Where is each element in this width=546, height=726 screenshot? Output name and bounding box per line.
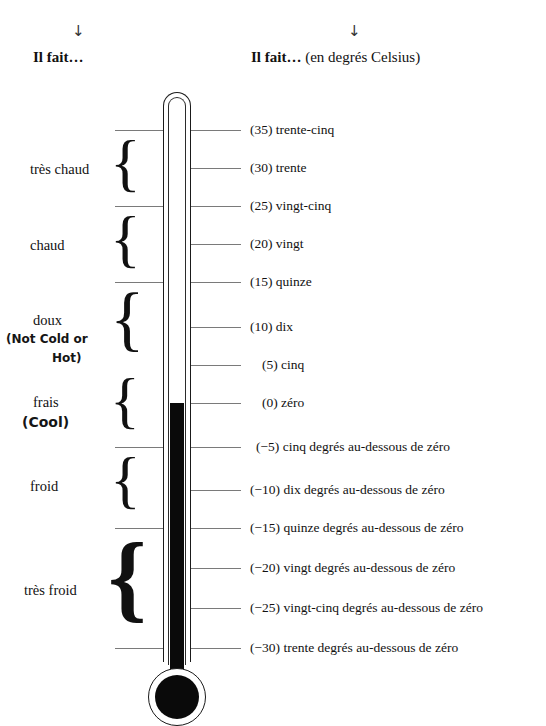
category-label-chaud: chaud [30,238,65,253]
brace-tres-froid: { [108,531,147,623]
reading-label-m30: (−30) trente degrés au-dessous de zéro [250,641,458,655]
brace-tres-chaud: { [110,133,141,193]
reading-label-m15: (−15) quinze degrés au-dessous de zéro [250,521,463,535]
brace-chaud: { [110,209,141,269]
reading-label-0: (0) zéro [262,396,304,410]
thermometer-bulb-inner [155,675,199,719]
brace-frais: { [110,371,140,429]
reading-label-m10: (−10) dix degrés au-dessous de zéro [250,483,445,497]
reading-label-m20: (−20) vingt degrés au-dessous de zéro [250,561,455,575]
header-right-sub: (en degrés Celsius) [301,49,420,65]
annotation-doux-line1: (Not Cold or [6,333,88,346]
reading-label-5: (5) cinq [262,358,304,372]
reading-label-35: (35) trente-cinq [250,123,334,137]
reading-label-10: (10) dix [250,320,293,334]
category-label-froid: froid [30,479,58,494]
header-left-bold: Il fait… [33,49,83,65]
reading-label-m5: (−5) cinq degrés au-dessous de zéro [256,440,450,454]
header-left: Il fait… [33,50,83,65]
reading-label-15: (15) quinze [250,275,312,289]
reading-label-20: (20) vingt [250,237,304,251]
category-label-doux: doux [33,313,62,328]
arrow-down-icon-left: ↓ [72,24,85,39]
category-label-tres-chaud: très chaud [30,162,89,177]
thermometer-mercury-column [170,403,184,688]
header-right: Il fait… (en degrés Celsius) [251,50,420,65]
annotation-doux-line2: Hot) [52,352,82,365]
reading-label-m25: (−25) vingt-cinq degrés au-dessous de zé… [250,601,483,615]
reading-label-25: (25) vingt-cinq [250,199,331,213]
reading-label-30: (30) trente [250,161,307,175]
brace-froid: { [110,450,141,510]
arrow-down-icon-right: ↓ [348,24,361,39]
category-label-frais: frais [33,395,59,410]
annotation-frais-line1: (Cool) [22,415,69,430]
header-right-bold: Il fait… [251,49,301,65]
brace-doux: { [110,285,145,353]
category-label-tres-froid: très froid [24,583,77,598]
